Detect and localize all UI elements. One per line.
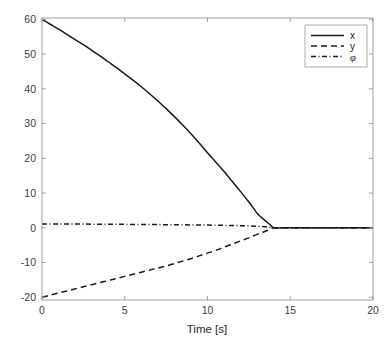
- legend-label-x: x: [350, 30, 355, 41]
- y-tick-label: 20: [24, 152, 36, 164]
- y-tick-label: 30: [24, 117, 36, 129]
- y-tick-label: 60: [24, 13, 36, 25]
- y-tick-label: 10: [24, 187, 36, 199]
- y-tick-label: 50: [24, 48, 36, 60]
- x-tick-label: 0: [39, 304, 45, 316]
- x-tick-labels: 05101520: [39, 304, 379, 316]
- y-tick-label: 0: [30, 222, 36, 234]
- x-tick-label: 15: [284, 304, 296, 316]
- y-tick-labels: -20-100102030405060: [21, 13, 36, 303]
- y-tick-label: -20: [21, 291, 36, 303]
- x-axis-title: Time [s]: [187, 323, 227, 335]
- x-tick-label: 10: [202, 304, 214, 316]
- figure-canvas: 05101520 -20-100102030405060 Time [s] x …: [0, 0, 385, 344]
- x-tick-label: 20: [367, 304, 379, 316]
- legend[interactable]: x y φ: [305, 25, 367, 67]
- legend-label-y: y: [350, 41, 355, 52]
- legend-label-phi: φ: [350, 52, 356, 63]
- x-tick-label: 5: [122, 304, 128, 316]
- y-tick-label: 40: [24, 83, 36, 95]
- y-tick-label: -10: [21, 256, 36, 268]
- line-chart: 05101520 -20-100102030405060 Time [s] x …: [0, 0, 385, 344]
